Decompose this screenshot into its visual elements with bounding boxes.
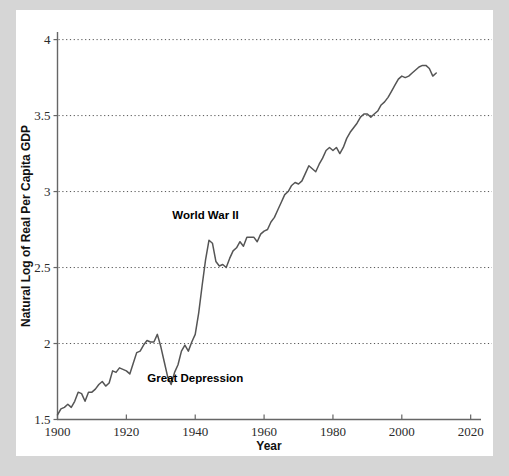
x-axis-tick-label: 1960 <box>251 424 277 439</box>
y-axis-title: Natural Log of Real Per Capita GDP <box>19 125 33 327</box>
x-axis-tick-label: 2000 <box>389 424 415 439</box>
y-axis-tick-label: 3 <box>44 184 51 199</box>
chart-annotation: World War II <box>172 209 238 221</box>
gridlines <box>59 40 493 344</box>
x-axis-title: Year <box>256 439 282 453</box>
y-axis-tick-label: 4 <box>44 32 51 47</box>
figure-card: 1.522.533.54 190019201940196019802000202… <box>16 10 493 456</box>
y-axis-tick-label: 2 <box>44 336 51 351</box>
y-axis-tick-label: 2.5 <box>34 260 50 275</box>
gdp-line-chart: 1.522.533.54 190019201940196019802000202… <box>16 10 493 456</box>
x-axis-tick-label: 2020 <box>458 424 484 439</box>
x-axis-ticks: 1900192019401960198020002020 <box>45 415 484 439</box>
y-axis-tick-label: 3.5 <box>34 108 50 123</box>
x-axis-tick-label: 1940 <box>182 424 208 439</box>
x-axis-tick-label: 1900 <box>45 424 71 439</box>
gdp-series-line <box>58 65 437 415</box>
figure-frame: 1.522.533.54 190019201940196019802000202… <box>0 0 509 476</box>
chart-annotation: Great Depression <box>147 372 243 384</box>
x-axis-tick-label: 1980 <box>320 424 346 439</box>
x-axis-tick-label: 1920 <box>113 424 139 439</box>
annotation-group: World War IIGreat Depression <box>147 209 243 384</box>
y-axis-ticks: 1.522.533.54 <box>34 32 57 427</box>
